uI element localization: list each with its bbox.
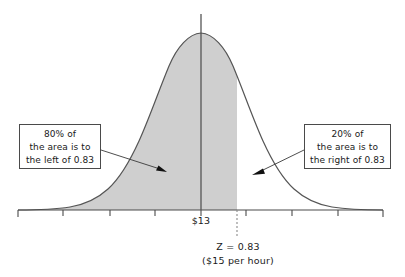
z-conversion-text: ($15 per hour) <box>186 254 290 268</box>
callout-right-line-2: the area is to <box>305 141 390 154</box>
callout-left-line-3: the left of 0.83 <box>20 154 100 167</box>
shaded-area-left-of-z <box>18 33 237 210</box>
right-callout-arrowhead <box>252 169 265 176</box>
mean-axis-label: $13 <box>175 215 227 226</box>
callout-box-right: 20% of the area is to the right of 0.83 <box>304 124 391 169</box>
callout-right-line-1: 20% of <box>305 128 390 141</box>
right-callout-leader-line <box>261 150 304 171</box>
z-value-text: Z = 0.83 <box>186 240 290 254</box>
callout-box-left: 80% of the area is to the left of 0.83 <box>19 124 101 169</box>
callout-right-line-3: the right of 0.83 <box>305 154 390 167</box>
callout-left-line-1: 80% of <box>20 128 100 141</box>
z-axis-label: Z = 0.83 ($15 per hour) <box>186 240 290 268</box>
callout-left-line-2: the area is to <box>20 141 100 154</box>
